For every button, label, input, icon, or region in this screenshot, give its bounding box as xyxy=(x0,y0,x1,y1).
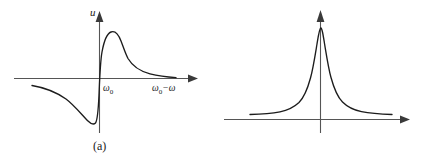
y-axis-arrow-a xyxy=(96,11,104,22)
x-axis-label-a-main: ω xyxy=(152,83,159,93)
dispersion-curve-a xyxy=(32,32,176,124)
panel-caption-a: (a) xyxy=(93,140,106,152)
y-axis-label-a: u xyxy=(90,7,96,18)
plot-a-graphics xyxy=(0,0,213,163)
plot-b-graphics xyxy=(213,0,426,163)
y-axis-arrow-b xyxy=(317,10,325,22)
x-axis-label-a: ω0−ω xyxy=(152,84,175,96)
x-axis-arrow-b xyxy=(400,116,410,124)
figure-two-lineshape-plots: u ω0 ω0−ω (a) −v ω0 ω0−ω (b) xyxy=(0,0,426,163)
plot-panel-a: u ω0 ω0−ω (a) xyxy=(0,0,213,163)
tick-label-omega0-a: ω0 xyxy=(103,84,113,96)
tick-label-omega0-a-main: ω xyxy=(103,83,110,93)
x-axis-label-a-tail: −ω xyxy=(162,83,175,93)
plot-panel-b: −v ω0 ω0−ω (b) xyxy=(213,0,426,163)
x-axis-arrow-a xyxy=(188,75,198,83)
tick-label-omega0-a-sub: 0 xyxy=(110,88,114,96)
